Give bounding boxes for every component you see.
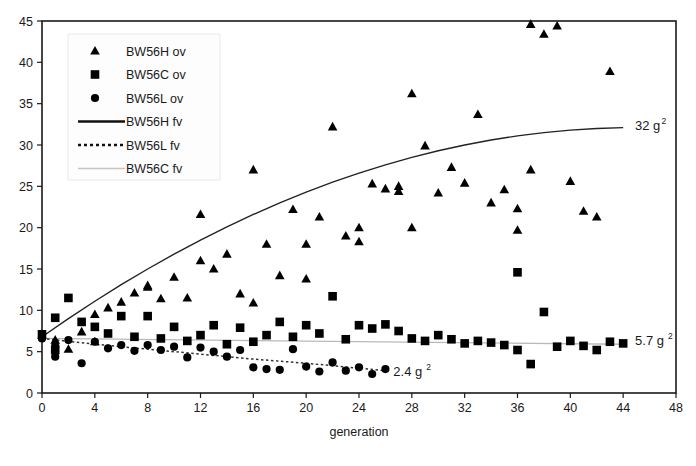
x-tick-label: 24 xyxy=(352,401,366,415)
data-point-square xyxy=(249,337,258,346)
data-point-circle xyxy=(210,348,218,356)
data-point-circle xyxy=(51,353,59,361)
x-tick-label: 4 xyxy=(91,401,98,415)
x-tick-label: 20 xyxy=(299,401,313,415)
data-point-circle xyxy=(183,353,191,361)
annotation-superscript: 2 xyxy=(668,331,673,341)
data-point-square xyxy=(526,360,535,369)
y-tick-label: 45 xyxy=(19,15,33,29)
y-tick-label: 40 xyxy=(19,56,33,70)
data-point-circle xyxy=(355,363,363,371)
legend-label: BW56L ov xyxy=(126,92,184,106)
x-tick-label: 0 xyxy=(39,401,46,415)
data-point-circle xyxy=(78,359,86,367)
data-point-square xyxy=(619,339,628,348)
data-point-square xyxy=(223,340,232,349)
data-point-circle xyxy=(381,365,389,373)
x-tick-label: 32 xyxy=(458,401,472,415)
x-tick-label: 8 xyxy=(144,401,151,415)
data-point-circle xyxy=(196,343,204,351)
annotation-label: 32 g xyxy=(635,118,660,133)
data-point-square xyxy=(434,331,443,340)
data-point-square xyxy=(289,332,298,341)
chart-figure: 0510152025303540450481216202428323640444… xyxy=(0,0,696,466)
data-point-square xyxy=(262,331,271,340)
data-point-circle xyxy=(223,353,231,361)
x-axis-title: generation xyxy=(329,425,388,439)
data-point-square xyxy=(474,337,483,346)
data-point-square xyxy=(91,70,100,79)
data-point-circle xyxy=(38,334,46,342)
data-point-square xyxy=(540,308,549,317)
data-point-square xyxy=(117,312,126,321)
data-point-square xyxy=(513,268,522,277)
data-point-square xyxy=(196,331,205,340)
data-point-circle xyxy=(144,341,152,349)
data-point-circle xyxy=(342,367,350,375)
x-tick-label: 36 xyxy=(511,401,525,415)
y-tick-label: 30 xyxy=(19,139,33,153)
y-tick-label: 25 xyxy=(19,180,33,194)
y-tick-label: 15 xyxy=(19,263,33,277)
y-tick-label: 10 xyxy=(19,304,33,318)
data-point-circle xyxy=(236,346,244,354)
x-tick-label: 40 xyxy=(563,401,577,415)
data-point-circle xyxy=(315,367,323,375)
data-point-circle xyxy=(276,366,284,374)
data-point-square xyxy=(51,313,60,322)
data-point-square xyxy=(275,318,284,327)
data-point-square xyxy=(157,334,166,343)
y-tick-label: 5 xyxy=(26,345,33,359)
scatter-plot: 0510152025303540450481216202428323640444… xyxy=(0,0,696,466)
data-point-square xyxy=(513,346,522,355)
legend-label: BW56L fv xyxy=(126,139,180,153)
data-point-square xyxy=(355,321,364,330)
data-point-square xyxy=(487,338,496,347)
data-point-circle xyxy=(117,341,125,349)
data-point-square xyxy=(421,337,430,346)
data-point-square xyxy=(104,329,113,338)
y-tick-label: 35 xyxy=(19,97,33,111)
y-tick-label: 20 xyxy=(19,221,33,235)
x-tick-label: 48 xyxy=(669,401,683,415)
data-point-circle xyxy=(64,336,72,344)
data-point-circle xyxy=(302,362,310,370)
data-point-circle xyxy=(368,370,376,378)
data-point-circle xyxy=(262,365,270,373)
x-tick-label: 16 xyxy=(246,401,260,415)
data-point-square xyxy=(553,342,562,351)
x-tick-label: 12 xyxy=(194,401,208,415)
data-point-square xyxy=(341,335,350,344)
legend-label: BW56C fv xyxy=(126,162,183,176)
data-point-square xyxy=(64,294,73,303)
data-point-circle xyxy=(328,358,336,366)
data-point-square xyxy=(183,337,192,346)
data-point-square xyxy=(447,335,456,344)
data-point-square xyxy=(130,332,139,341)
legend-label: BW56H ov xyxy=(126,45,186,59)
data-point-circle xyxy=(170,343,178,351)
data-point-square xyxy=(579,342,588,351)
data-point-circle xyxy=(51,342,59,350)
data-point-square xyxy=(394,327,403,336)
data-point-circle xyxy=(130,347,138,355)
data-point-square xyxy=(381,320,390,329)
data-point-square xyxy=(606,337,615,346)
data-point-square xyxy=(91,323,100,332)
x-tick-label: 44 xyxy=(616,401,630,415)
data-point-square xyxy=(209,321,218,330)
annotation-label: 5.7 g xyxy=(635,333,664,348)
data-point-square xyxy=(170,323,179,332)
data-point-square xyxy=(460,339,469,348)
data-point-circle xyxy=(91,94,99,102)
data-point-circle xyxy=(104,344,112,352)
y-tick-label: 0 xyxy=(26,387,33,401)
annotation-superscript: 2 xyxy=(426,362,431,372)
data-point-square xyxy=(302,321,311,330)
data-point-square xyxy=(143,312,152,321)
data-point-square xyxy=(500,341,509,350)
data-point-square xyxy=(408,334,417,343)
legend: BW56H ovBW56C ovBW56L ovBW56H fvBW56L fv… xyxy=(68,34,220,180)
data-point-circle xyxy=(289,345,297,353)
data-point-square xyxy=(328,292,337,301)
